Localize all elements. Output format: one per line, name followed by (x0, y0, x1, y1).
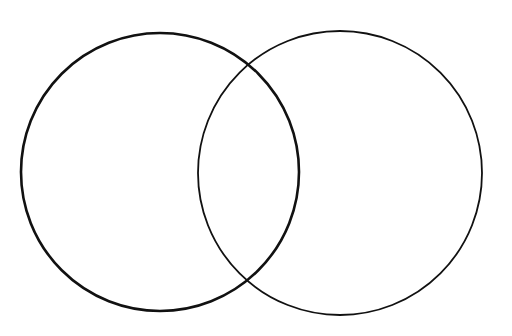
circle-right (198, 31, 482, 315)
circle-left (21, 33, 299, 311)
venn-diagram (0, 0, 512, 336)
venn-svg (0, 0, 512, 336)
